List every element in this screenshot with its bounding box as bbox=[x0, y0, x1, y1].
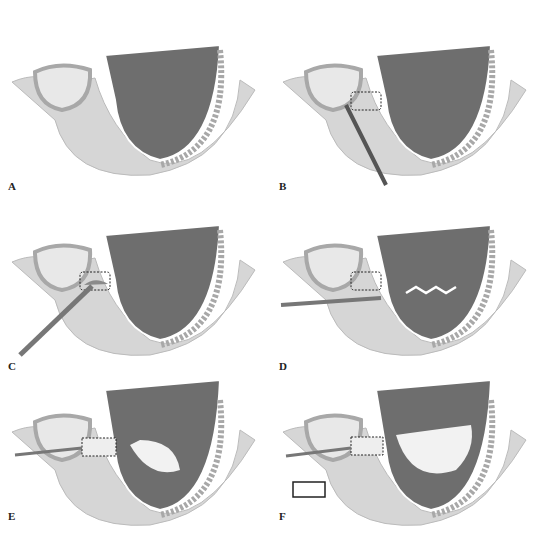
panel-label: F bbox=[279, 510, 286, 522]
panel-f: F bbox=[271, 360, 542, 535]
panel-c: C bbox=[0, 190, 271, 368]
panel-e: E bbox=[0, 360, 271, 535]
scale-bar bbox=[293, 482, 325, 497]
panel-a: A bbox=[0, 10, 271, 188]
panel-label: E bbox=[8, 510, 15, 522]
panel-d: D bbox=[271, 190, 542, 368]
panel-b: B bbox=[271, 10, 542, 188]
